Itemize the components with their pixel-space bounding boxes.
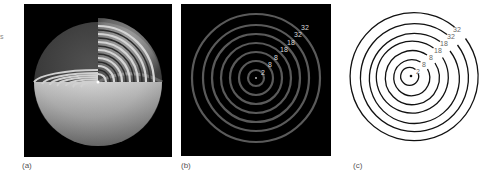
panel-a-3d-shells [24,4,172,157]
caption-c: (c) [353,161,362,170]
panel-b-cross-section-dark: 2 8 8 18 18 32 32 [181,4,331,156]
ring-label-6: 32 [294,31,302,38]
ring-label-4: 18 [280,46,288,53]
shells-3d-illustration [24,4,172,157]
ring-label-5: 18 [440,40,448,47]
rings-dark-illustration: 2 8 8 18 18 32 32 [181,4,331,156]
ring-label-5: 18 [287,39,295,46]
ring-label-3: 8 [274,54,278,61]
ring-label-7: 32 [453,26,461,33]
ring-label-6: 32 [447,33,455,40]
ring-label-3: 8 [429,54,433,61]
ring-label-7: 32 [301,24,309,31]
ring-label-1: 2 [416,68,420,75]
rings-line-illustration: 2 8 8 18 18 32 32 [337,4,487,156]
ring-label-4: 18 [434,47,442,54]
caption-b: (b) [181,161,191,170]
ring-label-2: 8 [422,61,426,68]
panel-c-line-drawing: 2 8 8 18 18 32 32 [337,4,487,156]
caption-a: (a) [22,161,32,170]
cropped-edge-mark: s [0,33,4,40]
ring-label-1: 2 [261,69,265,76]
ring-label-2: 8 [268,61,272,68]
